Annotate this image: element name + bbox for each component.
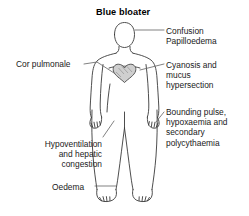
right-arm-inner: [146, 65, 149, 118]
label-cor-pulmonale: Cor pulmonale: [16, 59, 70, 69]
leader-line-cyanosis: [140, 64, 164, 70]
label-oedema: Oedema: [52, 182, 84, 192]
label-confusion: Confusion Papilloedema: [166, 26, 217, 46]
blue-bloater-diagram: Blue bloater Confusion Papilloedema Cyan…: [0, 0, 249, 216]
label-cyanosis: Cyanosis and mucus hypersection: [166, 60, 217, 91]
right-foot-toes: [139, 197, 149, 202]
heart-shape: [113, 64, 136, 82]
neck-outline-right: [130, 47, 133, 54]
label-bounding-pulse: Bounding pulse, hypoxaemia and secondary…: [166, 107, 227, 148]
right-leg-inner: [125, 128, 134, 190]
leader-line-hypoventilation: [103, 121, 114, 137]
diagram-title: Blue bloater: [96, 7, 150, 17]
abdomen-contour: [107, 84, 110, 112]
left-foot-toes: [100, 197, 110, 202]
neck-outline: [116, 47, 119, 54]
left-leg-inner: [116, 128, 125, 190]
left-arm-inner: [100, 65, 103, 118]
head-outline: [115, 23, 135, 48]
label-hypoventilation: Hypoventilation and hepatic congestion: [8, 139, 102, 170]
torso-outline-right: [133, 53, 159, 117]
